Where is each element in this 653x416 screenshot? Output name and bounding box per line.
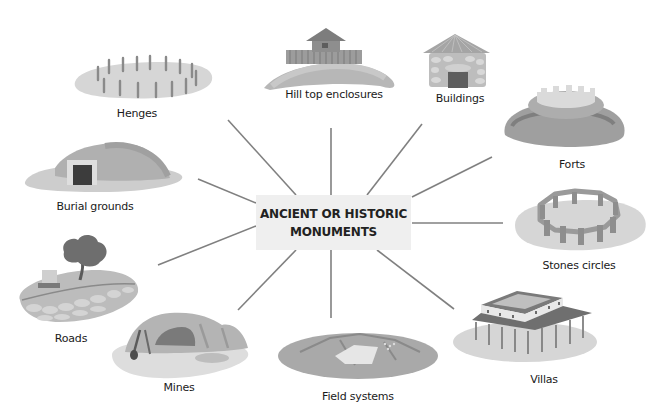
stone-circle-icon bbox=[515, 191, 646, 250]
label-henges: Henges bbox=[117, 107, 157, 120]
label-mines: Mines bbox=[163, 381, 194, 394]
mine-icon bbox=[112, 313, 248, 379]
fort-icon bbox=[504, 85, 624, 147]
spider-diagram: ANCIENT OR HISTORIC MONUMENTS Henges Hil… bbox=[0, 0, 653, 416]
connector-burial-grounds bbox=[198, 179, 256, 203]
label-roads: Roads bbox=[55, 332, 87, 345]
connector-forts bbox=[412, 157, 492, 197]
connector-roads bbox=[158, 226, 256, 265]
field-icon bbox=[278, 333, 438, 379]
villa-icon bbox=[453, 291, 597, 362]
roundhouse-icon bbox=[423, 34, 490, 88]
label-buildings: Buildings bbox=[436, 92, 485, 105]
hillfort-icon bbox=[264, 28, 394, 90]
central-topic-box: ANCIENT OR HISTORIC MONUMENTS bbox=[256, 195, 411, 250]
label-field-systems: Field systems bbox=[322, 390, 394, 403]
henge-icon bbox=[75, 56, 213, 98]
road-icon bbox=[20, 235, 139, 322]
label-forts: Forts bbox=[559, 158, 585, 171]
connector-henges bbox=[228, 120, 296, 195]
label-villas: Villas bbox=[530, 373, 558, 386]
label-burial-grounds: Burial grounds bbox=[56, 200, 133, 213]
connector-mines bbox=[238, 250, 296, 310]
label-hill-top-enclosures: Hill top enclosures bbox=[285, 88, 383, 101]
barrow-icon bbox=[25, 143, 182, 192]
connector-buildings bbox=[367, 124, 422, 195]
central-topic-line-2: MONUMENTS bbox=[290, 223, 377, 241]
connector-villas bbox=[377, 250, 454, 309]
central-topic-line-1: ANCIENT OR HISTORIC bbox=[260, 205, 407, 223]
label-stones-circles: Stones circles bbox=[542, 259, 615, 272]
